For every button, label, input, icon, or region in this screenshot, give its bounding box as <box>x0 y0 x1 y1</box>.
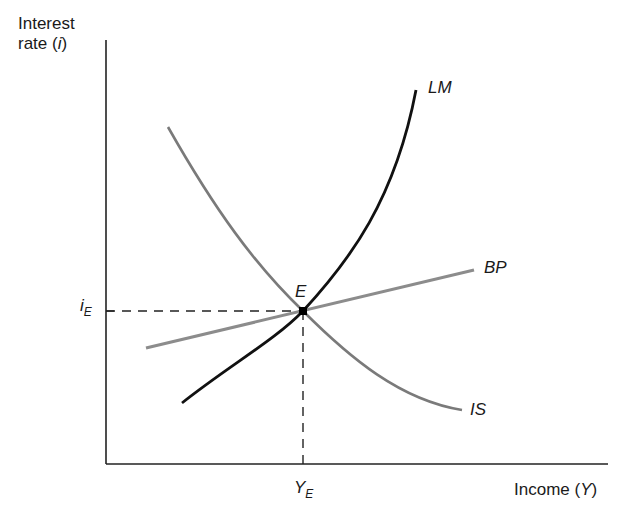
y-axis-label-close: ) <box>61 34 67 53</box>
ye-label: YE <box>294 478 313 499</box>
y-axis-label-line1: Interest <box>18 14 75 34</box>
ye-sub: E <box>305 487 313 501</box>
ye-main: Y <box>294 478 305 497</box>
bp-curve <box>146 270 474 348</box>
x-axis-label-close: ) <box>591 480 597 499</box>
y-axis-label: Interest rate (i) <box>18 14 75 54</box>
y-axis-label-text: rate ( <box>18 34 58 53</box>
ie-sub: E <box>84 305 92 319</box>
ie-label: iE <box>80 296 92 317</box>
is-lm-bp-diagram <box>0 0 644 530</box>
is-label: IS <box>470 400 486 420</box>
y-axis-label-line2: rate (i) <box>18 34 75 54</box>
lm-label: LM <box>428 78 452 98</box>
equilibrium-point <box>299 307 307 315</box>
is-curve <box>168 127 462 410</box>
x-axis-label: Income (Y) <box>514 480 597 500</box>
x-axis-variable: Y <box>580 480 591 499</box>
equilibrium-label: E <box>295 282 306 302</box>
bp-label: BP <box>484 258 507 278</box>
x-axis-label-text: Income ( <box>514 480 580 499</box>
lm-curve <box>182 90 416 403</box>
